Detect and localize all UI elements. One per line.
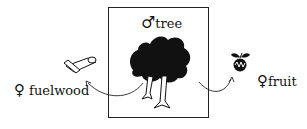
- fuelwood-label: ♀ fuelwood: [14, 83, 89, 98]
- female-symbol-icon: ♀: [14, 81, 25, 99]
- arrow-to-fruit: [199, 77, 234, 91]
- tree-label: ♂tree: [141, 16, 182, 31]
- fruit-icon: [231, 53, 250, 72]
- diagram: ♂tree ♀ fuelwood ♀fruit: [0, 0, 307, 129]
- tree-icon: [130, 37, 190, 108]
- fruit-label: ♀fruit: [257, 74, 297, 89]
- fuelwood-icon: [64, 57, 96, 73]
- male-symbol-icon: ♂: [141, 13, 155, 32]
- arrow-to-fuelwood: [86, 81, 143, 96]
- female-symbol-icon: ♀: [257, 72, 268, 90]
